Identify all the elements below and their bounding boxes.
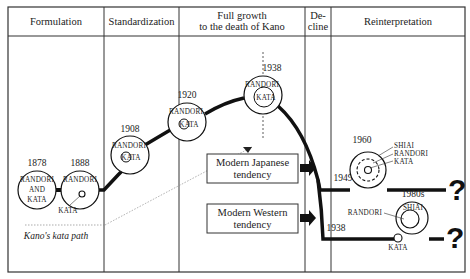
question-mark: ? bbox=[448, 173, 466, 206]
node-inner-label: SHIAI bbox=[403, 204, 424, 212]
label-pointer bbox=[378, 147, 393, 156]
branch-year-1949: 1949 bbox=[334, 173, 353, 183]
header-decline-line1: De- bbox=[310, 10, 326, 21]
node-label: AND bbox=[29, 186, 45, 194]
node-outer-label: RANDORI bbox=[63, 176, 98, 184]
node-label: KATA bbox=[394, 158, 414, 166]
header-full-growth-line2: to the death of Kano bbox=[199, 21, 285, 32]
node-outer-label: RANDORI bbox=[112, 142, 147, 150]
node-year: 1920 bbox=[178, 90, 197, 100]
node-inner-label: KATA bbox=[121, 154, 141, 162]
detached-kata-circle bbox=[394, 234, 402, 242]
node-year: 1960 bbox=[353, 135, 372, 145]
header-reinterpretation: Reinterpretation bbox=[364, 16, 433, 27]
header-decline-line2: cline bbox=[308, 21, 329, 32]
kata-path-label: Kano's kata path bbox=[23, 231, 89, 241]
branch-year-1938: 1938 bbox=[327, 223, 346, 233]
node-year: 1908 bbox=[121, 124, 140, 134]
node-outer-label: RANDORI bbox=[169, 108, 204, 116]
growth-line bbox=[145, 129, 172, 145]
node-year: 1980s bbox=[402, 189, 425, 199]
node-year: 1938 bbox=[263, 63, 282, 73]
tendency-label: tendency bbox=[234, 219, 273, 230]
header-standardization: Standardization bbox=[109, 16, 176, 27]
question-mark: ? bbox=[446, 221, 464, 254]
node-label: RANDORI bbox=[394, 150, 429, 158]
detached-label: KATA bbox=[388, 244, 408, 252]
arrow-right-icon bbox=[300, 210, 316, 226]
node-inner-label: KATA bbox=[58, 207, 78, 215]
node-inner-label: KATA bbox=[256, 94, 276, 102]
node-outer-label: RANDORI bbox=[245, 81, 280, 89]
node-label: SHIAI bbox=[394, 142, 415, 150]
judo-evolution-diagram: Formulation Standardization Full growth … bbox=[0, 0, 470, 279]
tendency-label: tendency bbox=[234, 169, 273, 180]
header-full-growth-line1: Full growth bbox=[217, 10, 267, 21]
node-year: 1878 bbox=[28, 158, 47, 168]
node-outer-label: RANDORI bbox=[348, 209, 383, 217]
node-label: RANDORI bbox=[20, 176, 55, 184]
node-year: 1888 bbox=[71, 158, 90, 168]
tendency-label: Modern Japanese bbox=[216, 157, 290, 168]
node-label: KATA bbox=[27, 196, 47, 204]
kata-path-arrowhead bbox=[243, 147, 252, 153]
header-formulation: Formulation bbox=[30, 16, 83, 27]
growth-line bbox=[205, 98, 244, 114]
node-circle-1960 bbox=[350, 152, 386, 188]
node-inner-label: KATA bbox=[179, 121, 199, 129]
tendency-label: Modern Western bbox=[218, 207, 289, 218]
